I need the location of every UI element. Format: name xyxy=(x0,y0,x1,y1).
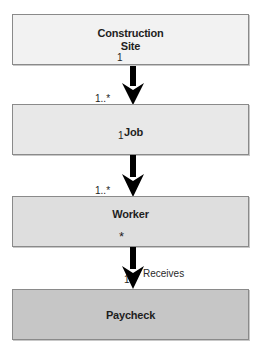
class-name-construction-site: Construction Site xyxy=(13,27,248,53)
multiplicity-job-source: 1 xyxy=(118,130,124,141)
class-box-paycheck: Paycheck xyxy=(12,289,249,340)
class-name-paycheck: Paycheck xyxy=(13,309,248,322)
association-label-receives: Receives xyxy=(143,268,184,279)
class-box-construction-site: Construction Site xyxy=(12,14,249,65)
multiplicity-worker-source: * xyxy=(119,231,124,242)
class-box-worker: Worker xyxy=(12,196,249,247)
class-name-worker: Worker xyxy=(13,208,248,221)
multiplicity-job-target: 1..* xyxy=(95,93,110,104)
multiplicity-site-source: 1 xyxy=(117,52,123,63)
class-name-line1: Construction xyxy=(13,27,248,40)
class-name-job: Job xyxy=(13,126,248,139)
multiplicity-worker-target: 1..* xyxy=(95,185,110,196)
class-box-job: Job xyxy=(12,104,249,155)
association-arrow-job-worker xyxy=(121,155,145,197)
association-arrow-site-job xyxy=(121,66,145,105)
class-name-line2: Site xyxy=(13,40,248,53)
multiplicity-paycheck-target: 1 xyxy=(124,274,130,285)
